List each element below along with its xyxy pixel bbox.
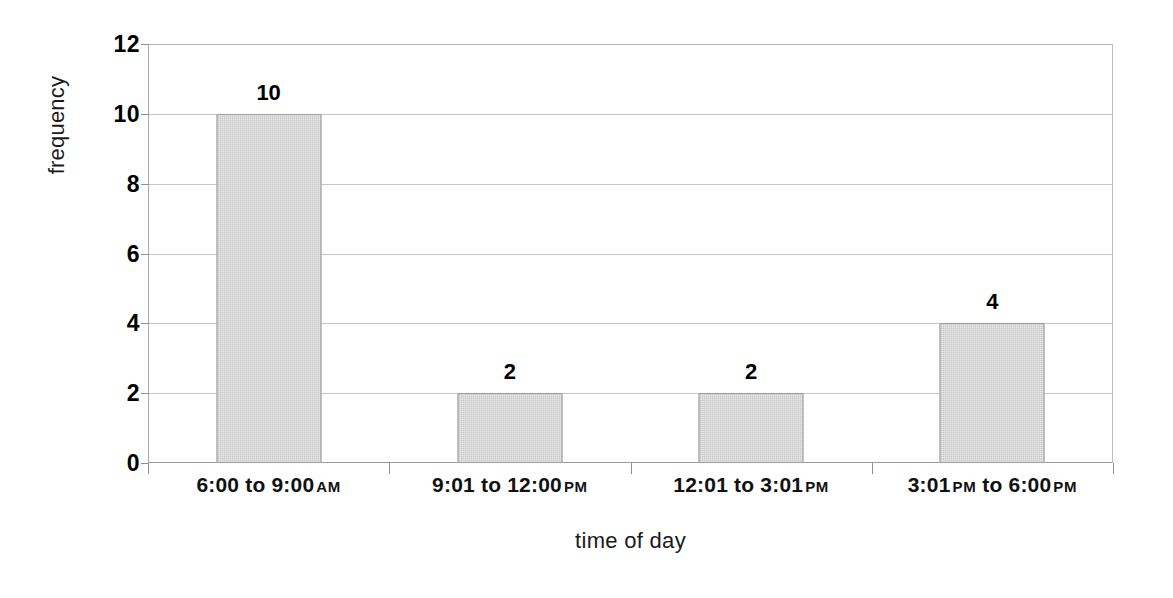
y-axis-tick-mark [141,114,149,115]
gridline [149,254,1112,255]
x-axis-tick-label: 6:00 to 9:00AM [148,473,389,497]
bar-chart: frequency 024681012 10224 6:00 to 9:00AM… [0,0,1173,598]
gridline [149,393,1112,394]
y-axis-tick-label: 4 [80,310,140,337]
y-axis-tick-label: 10 [80,100,140,127]
y-axis-tick-mark [141,323,149,324]
y-axis-tick-mark [141,463,149,464]
y-axis-tick-mark [141,393,149,394]
y-axis-tick-label: 2 [80,380,140,407]
x-axis-tick-label: 9:01 to 12:00PM [389,473,630,497]
y-axis-tick-label: 0 [80,450,140,477]
x-axis-title: time of day [148,528,1113,554]
gridline [149,323,1112,324]
y-axis-tick-label: 6 [80,240,140,267]
y-axis-tick-label: 12 [80,31,140,58]
x-axis-tick-label: 12:01 to 3:01PM [631,473,872,497]
y-axis-tick-mark [141,44,149,45]
y-axis-tick-mark [141,184,149,185]
gridline [149,114,1112,115]
x-axis-tick-labels: 6:00 to 9:00AM9:01 to 12:00PM12:01 to 3:… [148,473,1113,513]
y-axis-tick-mark [141,254,149,255]
plot-area [148,44,1113,463]
x-axis-tick-mark [1113,463,1114,474]
gridline [149,184,1112,185]
x-axis-tick-label: 3:01PM to 6:00PM [872,473,1113,497]
y-axis-tick-labels: 024681012 [70,44,140,463]
y-axis-tick-label: 8 [80,170,140,197]
